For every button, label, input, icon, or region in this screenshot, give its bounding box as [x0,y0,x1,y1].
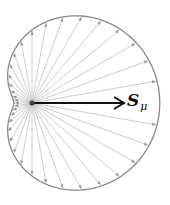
radial-arrow [20,103,32,165]
vector-label: Sμ [127,92,147,112]
radial-arrow [20,41,32,103]
main-vector-arrow [32,97,124,109]
radial-arrow [32,23,47,103]
radial-arrow [30,103,33,175]
origin-point [30,101,35,106]
diagram-canvas: Sμ [0,0,170,205]
radial-arrow [32,103,47,183]
radial-arrow [30,31,33,103]
